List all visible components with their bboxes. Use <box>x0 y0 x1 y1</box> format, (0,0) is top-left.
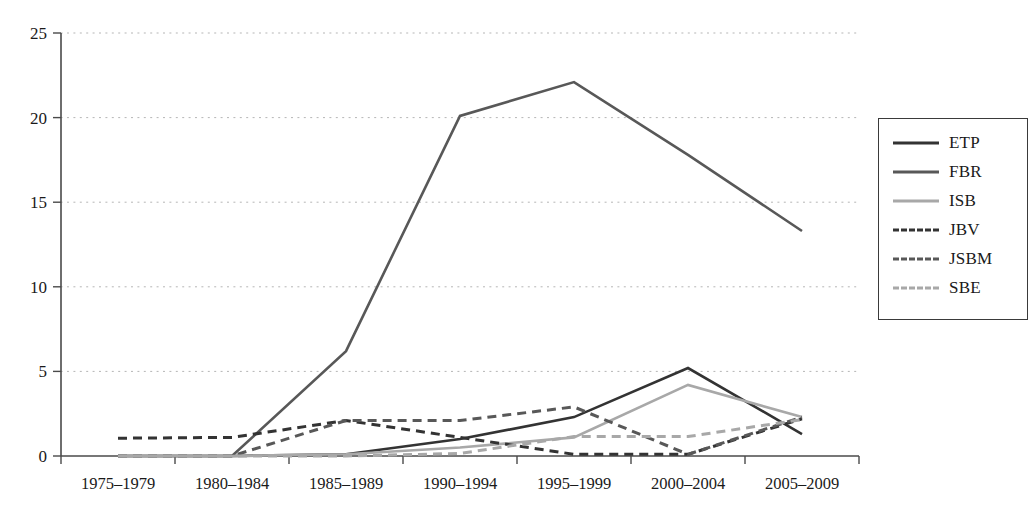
y-axis-tick-label: 10 <box>30 278 47 297</box>
x-axis-tick-label: 1995–1999 <box>537 474 611 493</box>
x-axis-tick-label: 2000–2004 <box>651 474 725 493</box>
legend: ETP FBR ISB JBV JSBM SBE <box>878 118 1028 320</box>
x-axis-tick-label: 1975–1979 <box>81 474 155 493</box>
line-chart: 05101520251975–19791980–19841985–1989199… <box>0 0 1031 521</box>
legend-label-fbr: FBR <box>949 163 982 180</box>
legend-swatch-fbr <box>893 166 939 178</box>
legend-item[interactable]: SBE <box>879 273 1027 302</box>
legend-label-jbv: JBV <box>949 221 980 238</box>
series-line-jbv <box>118 419 802 455</box>
x-axis-tick-label: 2005–2009 <box>765 474 839 493</box>
legend-item[interactable]: ETP <box>879 128 1027 157</box>
series-line-etp <box>118 368 802 456</box>
legend-item[interactable]: FBR <box>879 157 1027 186</box>
legend-label-etp: ETP <box>949 134 980 151</box>
y-axis-tick-label: 0 <box>39 447 48 466</box>
legend-swatch-isb <box>893 195 939 207</box>
legend-item[interactable]: JSBM <box>879 244 1027 273</box>
legend-label-jsbm: JSBM <box>949 250 992 267</box>
legend-swatch-jbv <box>893 224 939 236</box>
y-axis-tick-label: 25 <box>30 24 47 43</box>
legend-swatch-jsbm <box>893 253 939 265</box>
legend-label-isb: ISB <box>949 192 976 209</box>
x-axis-tick-label: 1985–1989 <box>309 474 383 493</box>
legend-label-sbe: SBE <box>949 279 981 296</box>
y-axis-tick-label: 15 <box>30 193 47 212</box>
legend-item[interactable]: ISB <box>879 186 1027 215</box>
y-axis-tick-label: 20 <box>30 109 47 128</box>
legend-swatch-etp <box>893 137 939 149</box>
legend-swatch-sbe <box>893 282 939 294</box>
y-axis-tick-label: 5 <box>39 362 48 381</box>
x-axis-tick-label: 1980–1984 <box>195 474 269 493</box>
legend-item[interactable]: JBV <box>879 215 1027 244</box>
plot-area: 05101520251975–19791980–19841985–1989199… <box>0 0 1031 521</box>
x-axis-tick-label: 1990–1994 <box>423 474 497 493</box>
series-line-fbr <box>118 82 802 456</box>
